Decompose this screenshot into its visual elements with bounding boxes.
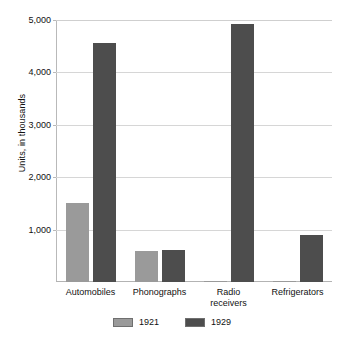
x-axis-tick-label: Automobiles	[56, 287, 125, 298]
bar-group	[56, 20, 125, 282]
x-axis-tick-label: Refrigerators	[263, 287, 332, 298]
legend-swatch-1921	[113, 318, 133, 327]
legend-label: 1921	[139, 317, 159, 327]
x-axis-tick-label: Phonographs	[125, 287, 194, 298]
bar-1929	[162, 250, 185, 282]
bar-1929	[300, 235, 323, 282]
legend-item-1929[interactable]: 1929	[185, 317, 231, 327]
bar-group	[125, 20, 194, 282]
bar-1929	[231, 24, 254, 282]
bar-1921	[135, 251, 158, 282]
y-tick-label-4000: 4,000	[28, 67, 51, 77]
y-tick-label-1000: 1,000	[28, 225, 51, 235]
y-tick-label-5000: 5,000	[28, 15, 51, 25]
y-tick-label-2000: 2,000	[28, 172, 51, 182]
bars-layer	[56, 20, 332, 282]
chart-legend: 19211929	[0, 317, 344, 327]
bar-1929	[93, 43, 116, 282]
bar-group	[194, 20, 263, 282]
y-tick-label-3000: 3,000	[28, 120, 51, 130]
legend-item-1921[interactable]: 1921	[113, 317, 159, 327]
x-axis-tick-label: Radio receivers	[194, 287, 263, 308]
bar-1921	[204, 281, 227, 283]
bar-1921	[66, 203, 89, 282]
plot-area: 1,0002,0003,0004,0005,000	[56, 20, 332, 282]
legend-swatch-1929	[185, 318, 205, 327]
legend-label: 1929	[211, 317, 231, 327]
bar-1921	[273, 281, 296, 283]
y-axis-title: Units, in thousands	[17, 68, 27, 198]
bar-group	[263, 20, 332, 282]
bar-chart: Units, in thousands 1,0002,0003,0004,000…	[0, 0, 344, 339]
